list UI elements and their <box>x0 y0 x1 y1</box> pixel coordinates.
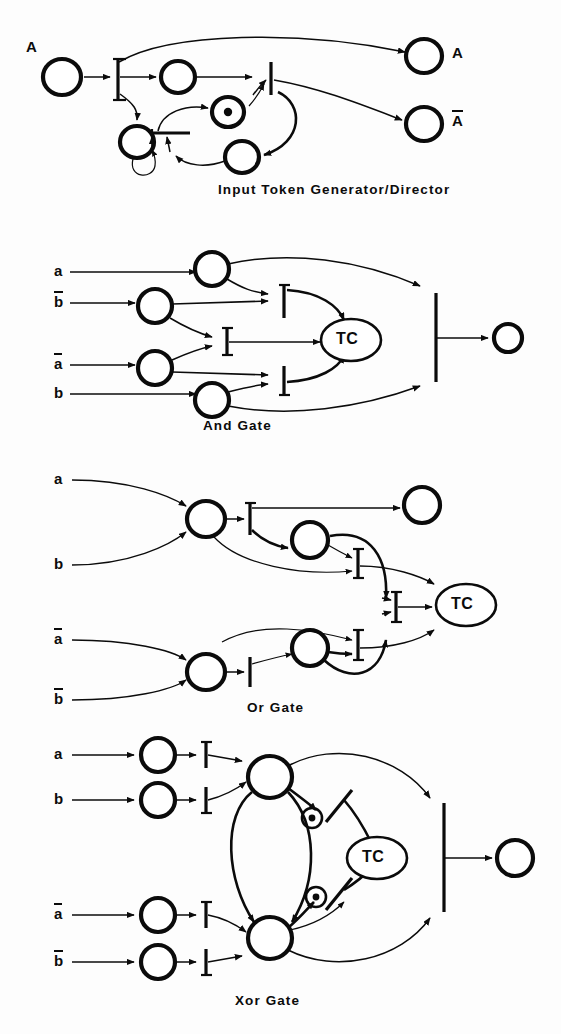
label-xor-in-b-bar: b <box>54 950 63 969</box>
arc-or-feedback-center <box>324 640 386 674</box>
label-output-A-bar-text: A <box>452 110 463 128</box>
place-xor-b <box>141 783 175 817</box>
label-and-in-b: b <box>54 384 63 401</box>
arc-b-to-tbot <box>228 384 268 392</box>
caption-and-gate: And Gate <box>203 418 272 433</box>
place-b <box>195 383 229 417</box>
label-output-A-bar: A <box>452 110 463 129</box>
panel-xor-gate <box>72 738 533 979</box>
place-or-inner-top <box>292 522 328 558</box>
arc-bbar-to-tmid <box>170 318 212 337</box>
label-xor-in-a: a <box>54 745 62 762</box>
arc-abar-to-tbot <box>172 372 268 375</box>
arc-or-t3-to-tc <box>360 630 434 648</box>
label-or-in-b: b <box>54 555 63 572</box>
place-xor-merge-top <box>248 756 292 798</box>
caption-or-gate: Or Gate <box>247 700 304 715</box>
tc-label-xor: TC <box>362 848 384 866</box>
token-dot <box>224 108 232 116</box>
place-a <box>195 252 229 286</box>
arc-or-in-bbar <box>72 680 186 700</box>
label-output-A: A <box>452 44 463 61</box>
arc-bottom-to-t3 <box>176 156 225 165</box>
arc-or-in-abar <box>72 640 186 660</box>
arc-t3-to-token-place <box>158 107 208 131</box>
arc-a-to-out-transition <box>228 258 420 286</box>
label-or-in-a: a <box>54 470 62 487</box>
label-or-in-a-bar: a <box>54 628 62 647</box>
place-and-output <box>494 324 522 352</box>
arc-xor-cross-left <box>231 792 254 922</box>
arc-ttop-to-tc <box>287 290 344 320</box>
label-xor-in-b: b <box>54 790 63 807</box>
label-and-in-a-bar-text: a <box>54 353 62 371</box>
arc-abar-to-tmid <box>172 346 212 360</box>
arc-or-t-to-inner <box>252 530 288 548</box>
tc-label-or: TC <box>451 595 473 613</box>
place-or-inner-bottom <box>292 630 328 666</box>
arc-t1-to-p-lowerleft <box>120 94 137 120</box>
place-xor-merge-bottom <box>248 917 292 959</box>
panel-and-gate <box>70 252 522 417</box>
arc-or-t4-to-innerbot <box>252 654 292 664</box>
label-input-A: A <box>26 38 37 55</box>
label-and-in-a: a <box>54 262 62 279</box>
place-bottom <box>225 141 259 173</box>
arc-or-inner-to-t2 <box>328 545 352 558</box>
petri-net-figure-sheet: .arc{fill:none;stroke:#0b0b0b;stroke-wid… <box>0 0 561 1034</box>
inhibitor-slash-bottom <box>326 878 352 910</box>
token-dot-top <box>309 815 316 822</box>
arc-token-place-to-t2 <box>249 84 264 106</box>
label-and-in-b-bar-text: b <box>54 291 63 309</box>
label-and-in-b-bar: b <box>54 291 63 310</box>
arc-t1-to-out-A <box>119 37 405 62</box>
arc-t2-to-out-Abar <box>274 80 402 120</box>
place-bbar <box>138 289 172 323</box>
label-and-in-a-bar: a <box>54 353 62 372</box>
diagram-canvas: .arc{fill:none;stroke:#0b0b0b;stroke-wid… <box>0 0 561 1034</box>
place-xor-bbar <box>141 945 175 979</box>
arc-bbar-to-ttop <box>172 301 268 304</box>
arc-up-into-t3-b <box>167 137 170 152</box>
place-mid <box>161 61 195 93</box>
arc-xor-tabar-to-merge-bot <box>208 915 246 932</box>
arc-into-or-center-bottom <box>382 612 391 614</box>
place-lower-left <box>120 126 154 158</box>
arc-into-or-center-top <box>382 598 391 600</box>
caption-input-token-generator: Input Token Generator/Director <box>218 182 450 197</box>
label-or-in-a-bar-text: a <box>54 628 62 646</box>
token-dot-bottom <box>313 894 320 901</box>
place-input-A <box>43 59 81 95</box>
caption-xor-gate: Xor Gate <box>235 993 300 1008</box>
place-output-Abar <box>406 107 442 141</box>
label-xor-in-a-bar: a <box>54 903 62 922</box>
arc-or-top-to-t2 <box>214 537 352 572</box>
place-xor-output <box>497 840 533 876</box>
arc-b-to-out-transition <box>228 386 420 411</box>
arc-xor-tb-to-merge-top <box>208 782 246 800</box>
arc-xor-ta-to-merge-top <box>208 755 242 761</box>
arc-or-innerbot-to-t3 <box>328 652 352 654</box>
arc-t2-to-bottom-place <box>264 92 296 155</box>
panel-input-token-generator <box>43 37 442 175</box>
arc-xor-tbbar-to-merge-bot <box>208 956 242 962</box>
arc-xor-mergetop-to-out <box>288 753 430 798</box>
tc-label-and: TC <box>336 330 358 348</box>
place-or-bottom <box>187 654 225 690</box>
label-or-in-b-bar: b <box>54 688 63 707</box>
arc-or-in-b <box>72 532 186 565</box>
place-or-top <box>187 501 225 537</box>
place-xor-a <box>141 738 175 772</box>
place-abar <box>138 351 172 385</box>
arc-xor-mergetop-to-smalltop <box>288 788 316 810</box>
arc-or-t2-to-tc <box>360 566 434 584</box>
arc-tbot-to-tc <box>287 356 344 382</box>
label-or-in-b-bar-text: b <box>54 688 63 706</box>
label-xor-in-b-bar-text: b <box>54 950 63 968</box>
panel-or-gate <box>72 480 496 700</box>
label-xor-in-a-bar-text: a <box>54 903 62 921</box>
place-xor-abar <box>141 898 175 932</box>
arc-a-to-ttop <box>227 279 268 294</box>
arc-or-bottom-to-t3 <box>222 629 352 642</box>
arc-or-in-a <box>72 480 186 506</box>
